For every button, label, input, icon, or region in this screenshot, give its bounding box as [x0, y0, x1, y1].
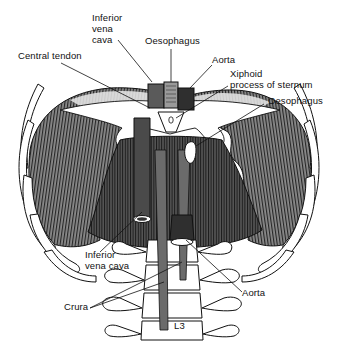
- label-ivc-top-line1: Inferior: [92, 13, 122, 24]
- label-xiphoid-line2: process of sternum: [230, 80, 313, 91]
- label-aorta-bottom: Aorta: [242, 288, 265, 299]
- inferior-vena-cava: [134, 118, 150, 218]
- label-vertebra-l3: L3: [174, 321, 185, 332]
- label-ivc-top-line3: cava: [92, 35, 112, 46]
- label-oesophagus-right: Oesophagus: [268, 96, 323, 107]
- label-ivc-bottom-line2: vena cava: [85, 261, 129, 272]
- label-xiphoid-line1: Xiphoid: [230, 69, 262, 80]
- label-ivc-bottom-line1: Inferior: [85, 250, 115, 261]
- label-aorta-top: Aorta: [212, 55, 235, 66]
- diaphragm-diagram: Inferior vena cava Oesophagus Central te…: [0, 0, 338, 347]
- label-central-tendon: Central tendon: [18, 51, 82, 62]
- vertebral-column: [103, 240, 242, 340]
- oesophageal-hiatus: [185, 142, 196, 164]
- label-crura: Crura: [64, 302, 88, 313]
- aorta-lower: [170, 215, 194, 240]
- label-oesophagus-top: Oesophagus: [145, 36, 200, 47]
- upper-vessels: [148, 82, 194, 110]
- label-ivc-top-line2: vena: [92, 24, 113, 35]
